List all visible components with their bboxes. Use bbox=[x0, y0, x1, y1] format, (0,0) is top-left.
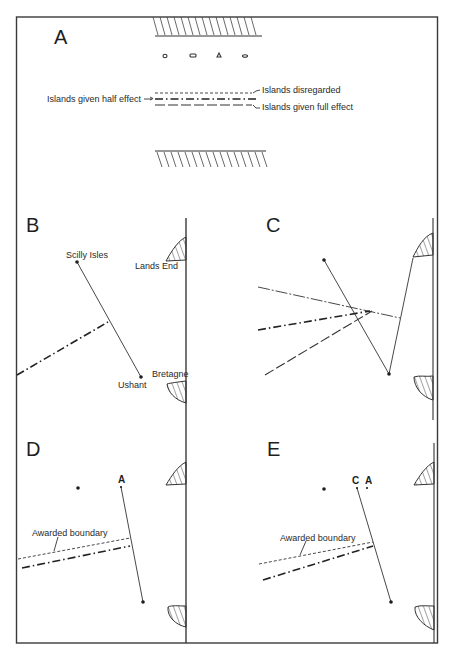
legend-full-effect: Islands given full effect bbox=[262, 102, 353, 112]
panel-a: A Islands disregarded Islands given half… bbox=[47, 17, 353, 167]
panel-letter-b: B bbox=[26, 214, 39, 236]
lands-end-coast-c bbox=[413, 233, 433, 257]
bretagne-coast-e bbox=[415, 606, 434, 630]
lands-end-coast bbox=[166, 237, 186, 261]
c-ushant-line-e bbox=[357, 488, 391, 602]
awarded-boundary-line-e bbox=[259, 542, 373, 564]
label-scilly-isles: Scilly Isles bbox=[66, 250, 109, 260]
scilly-point-e bbox=[322, 487, 326, 491]
full-effect-line-c bbox=[265, 311, 372, 375]
half-effect-line-d bbox=[22, 546, 130, 568]
island-effect-diagram: A Islands disregarded Islands given half… bbox=[0, 0, 452, 655]
panel-letter-d: D bbox=[26, 438, 40, 460]
point-a-d bbox=[120, 486, 122, 488]
ushant-point-d bbox=[141, 600, 145, 604]
scilly-isles-point bbox=[75, 260, 79, 264]
scilly-ushant-line bbox=[77, 262, 141, 377]
lands-end-coast-d bbox=[166, 462, 186, 485]
panel-e: E C A Awarded boundary bbox=[259, 438, 434, 643]
panel-letter-c: C bbox=[266, 214, 280, 236]
panel-letter-a: A bbox=[54, 26, 68, 48]
ushant-point-e bbox=[389, 600, 393, 604]
panel-letter-e: E bbox=[267, 438, 280, 460]
islands bbox=[163, 53, 248, 58]
panel-c: C bbox=[258, 214, 433, 420]
ushant-point-c bbox=[387, 372, 391, 376]
ushant-point bbox=[139, 375, 143, 379]
half-effect-line-b bbox=[17, 322, 108, 375]
awarded-leader-e bbox=[300, 541, 306, 555]
bretagne-coast bbox=[167, 381, 186, 403]
outer-frame bbox=[17, 17, 438, 643]
lands-end-coast-e bbox=[414, 462, 434, 485]
label-bretagne: Bretagne bbox=[152, 369, 189, 379]
awarded-leader-d bbox=[54, 537, 58, 551]
scilly-ushant-line-c bbox=[324, 260, 389, 374]
legend-disregarded: Islands disregarded bbox=[262, 85, 341, 95]
label-point-c-e: C bbox=[352, 475, 359, 486]
bretagne-coast-c bbox=[414, 376, 433, 400]
label-point-a-d: A bbox=[118, 474, 125, 485]
scilly-point-d bbox=[76, 486, 80, 490]
awarded-boundary-line-d bbox=[18, 538, 130, 559]
a-ushant-line-d bbox=[121, 487, 143, 602]
point-a-e bbox=[366, 487, 368, 489]
half-effect-line-e bbox=[263, 546, 373, 580]
top-coast-hatch bbox=[153, 17, 262, 36]
label-lands-end: Lands End bbox=[135, 261, 178, 271]
legend-half-effect: Islands given half effect bbox=[47, 94, 141, 104]
panel-d: D A Awarded boundary bbox=[18, 438, 186, 627]
label-point-a-e: A bbox=[365, 475, 372, 486]
label-awarded-boundary-e: Awarded boundary bbox=[280, 533, 356, 543]
scilly-point-c bbox=[322, 258, 326, 262]
half-effect-line-c bbox=[258, 311, 370, 330]
panel-b: B Scilly Isles Lands End Bretagne Ushant bbox=[17, 214, 189, 403]
bottom-coast-hatch bbox=[155, 151, 267, 167]
bretagne-coast-d bbox=[168, 606, 186, 627]
point-c-e bbox=[356, 487, 358, 489]
disregarded-line-c bbox=[258, 287, 400, 318]
label-ushant: Ushant bbox=[118, 380, 147, 390]
label-awarded-boundary-d: Awarded boundary bbox=[32, 528, 108, 538]
